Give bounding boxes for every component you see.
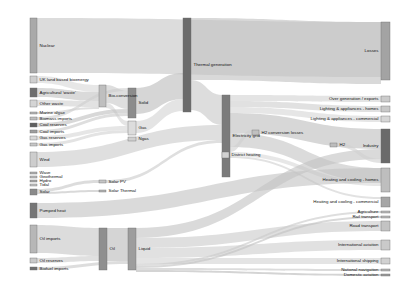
node-label-agri_waste: Agricultural 'waste' <box>40 90 76 95</box>
node-label-district_heating: District heating <box>232 152 262 157</box>
sankey-node-district_heating[interactable] <box>222 152 229 158</box>
node-label-bio_conversion: Bio-conversion <box>109 93 139 98</box>
node-label-oil_reserves: Oil reserves <box>40 258 64 263</box>
sankey-node-heat_homes[interactable] <box>381 168 390 192</box>
sankey-node-uk_land[interactable] <box>30 76 37 83</box>
sankey-node-agri_waste[interactable] <box>30 88 37 97</box>
node-label-solar: Solar <box>40 189 51 194</box>
node-label-electricity_grid: Electricity grid <box>233 133 261 138</box>
node-label-liquid: Liquid <box>139 246 151 251</box>
node-label-gas_imports: Gas imports <box>40 142 64 147</box>
node-label-rail_transport: Rail transport <box>352 214 379 219</box>
sankey-node-solar_thermal[interactable] <box>99 190 106 192</box>
node-label-oil: Oil <box>110 246 115 251</box>
sankey-node-biomass_imports[interactable] <box>30 117 37 120</box>
sankey-node-domestic_aviation[interactable] <box>381 274 390 276</box>
sankey-node-bio_conversion[interactable] <box>99 85 106 107</box>
sankey-node-solar[interactable] <box>30 189 37 195</box>
node-label-biofuel_imports: Biofuel imports <box>40 266 70 271</box>
node-label-domestic_aviation: Domestic aviation <box>344 272 379 277</box>
sankey-node-intl_shipping[interactable] <box>381 258 390 264</box>
node-label-tidal: Tidal <box>40 182 49 187</box>
sankey-node-light_homes[interactable] <box>381 106 390 112</box>
node-label-thermal_generation: Thermal generation <box>194 62 233 67</box>
node-label-light_homes: Lighting & appliances - homes <box>320 106 380 111</box>
node-label-pumped_heat: Pumped heat <box>40 208 67 213</box>
sankey-link[interactable] <box>191 18 381 84</box>
node-label-over_generation: Over generation / exports <box>329 96 379 101</box>
sankey-node-marine_algae[interactable] <box>30 112 37 114</box>
sankey-node-pumped_heat[interactable] <box>30 203 37 218</box>
sankey-node-coal_reserves[interactable] <box>30 123 37 127</box>
sankey-node-gas[interactable] <box>128 121 136 135</box>
sankey-node-over_generation[interactable] <box>381 96 390 102</box>
node-label-industry: Industry <box>363 143 379 148</box>
node-label-road_transport: Road transport <box>349 223 379 228</box>
sankey-node-other_waste[interactable] <box>30 100 37 107</box>
sankey-canvas: NuclearUK land based bioenergyAgricultur… <box>0 0 420 291</box>
node-label-solar_pv: Solar PV <box>109 179 126 184</box>
node-label-light_commercial: Lighting & appliances - commercial <box>310 116 378 121</box>
sankey-node-losses[interactable] <box>381 22 390 80</box>
sankey-node-rail_transport[interactable] <box>381 216 390 218</box>
sankey-node-liquid[interactable] <box>128 228 136 270</box>
node-label-heat_commercial: Heating and cooling - commercial <box>313 199 378 204</box>
sankey-node-industry[interactable] <box>381 129 390 163</box>
node-label-uk_land: UK land based bioenergy <box>40 77 90 82</box>
node-label-intl_aviation: International aviation <box>338 242 379 247</box>
node-label-h2: H2 <box>340 142 346 147</box>
node-label-gas: Gas <box>139 125 148 130</box>
node-label-coal_reserves: Coal reserves <box>40 122 68 127</box>
sankey-node-solar_pv[interactable] <box>99 180 106 183</box>
node-label-coal_imports: Coal imports <box>40 129 65 134</box>
node-label-intl_shipping: International shipping <box>337 258 379 263</box>
sankey-node-oil_imports[interactable] <box>30 225 37 253</box>
node-label-wind: Wind <box>40 157 51 162</box>
sankey-link[interactable] <box>107 228 128 261</box>
sankey-node-tidal[interactable] <box>30 184 37 186</box>
sankey-node-wind[interactable] <box>30 152 37 167</box>
node-label-solid: Solid <box>139 100 149 105</box>
sankey-node-gas_imports[interactable] <box>30 143 37 146</box>
sankey-node-heat_commercial[interactable] <box>381 197 390 207</box>
sankey-node-thermal_generation[interactable] <box>183 18 191 112</box>
node-label-losses: Losses <box>365 48 380 53</box>
sankey-node-h2[interactable] <box>330 143 337 147</box>
sankey-node-gas_reserves[interactable] <box>30 136 37 140</box>
node-label-marine_algae: Marine algae <box>40 110 66 115</box>
node-label-h2_conversion_losses: H2 conversion losses <box>262 130 305 135</box>
node-label-oil_imports: Oil imports <box>40 236 62 241</box>
sankey-node-road_transport[interactable] <box>381 221 390 231</box>
node-label-heat_homes: Heating and cooling - homes <box>323 177 380 182</box>
node-label-other_waste: Other waste <box>40 101 64 106</box>
node-label-gas_reserves: Gas reserves <box>40 135 67 140</box>
node-label-nuclear: Nuclear <box>40 43 56 48</box>
sankey-node-coal_imports[interactable] <box>30 130 37 133</box>
sankey-node-oil[interactable] <box>99 228 107 270</box>
sankey-node-hydro[interactable] <box>30 180 37 182</box>
sankey-node-biofuel_imports[interactable] <box>30 267 37 270</box>
sankey-node-agriculture[interactable] <box>381 211 390 213</box>
sankey-node-light_commercial[interactable] <box>381 116 390 122</box>
sankey-node-electricity_grid[interactable] <box>222 95 230 177</box>
node-label-solar_thermal: Solar Thermal <box>109 188 137 193</box>
sankey-node-ngas[interactable] <box>128 137 136 141</box>
sankey-node-national_navigation[interactable] <box>381 269 390 271</box>
sankey-node-nuclear[interactable] <box>30 18 37 73</box>
sankey-diagram: NuclearUK land based bioenergyAgricultur… <box>0 0 420 291</box>
node-label-biomass_imports: Biomass imports <box>40 116 73 121</box>
sankey-node-wave[interactable] <box>30 172 37 174</box>
sankey-node-geothermal[interactable] <box>30 176 37 178</box>
node-label-ngas: Ngas <box>139 136 150 141</box>
sankey-node-intl_aviation[interactable] <box>381 240 390 250</box>
sankey-node-oil_reserves[interactable] <box>30 258 37 263</box>
